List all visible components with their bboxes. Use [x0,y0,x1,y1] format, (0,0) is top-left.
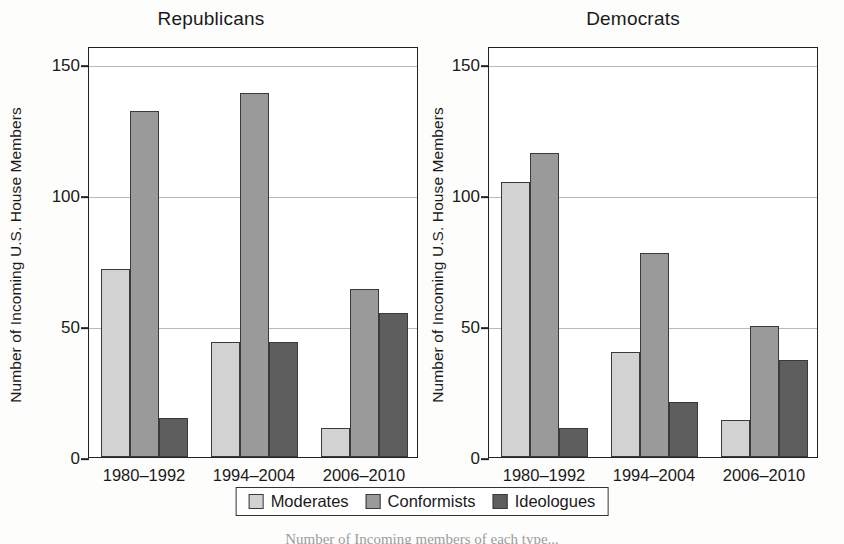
bar-dem-conformists-0[interactable] [530,153,559,457]
y-tick-label-150: 150 [52,56,80,76]
bar-rep-moderates-0[interactable] [101,269,130,457]
x-tick-label-dem-1: 1994–2004 [613,466,696,485]
legend-label-conformists: Conformists [388,492,476,511]
legend-label-moderates: Moderates [271,492,349,511]
bar-dem-moderates-0[interactable] [501,182,530,457]
chart-legend: ModeratesConformistsIdeologues [236,487,609,516]
plot-area-democrats: 050100150 1980–19921994–20042006–2010 [488,47,818,458]
legend-item-moderates[interactable]: Moderates [249,492,349,511]
bar-group-rep-2 [309,48,419,457]
legend-item-ideologues[interactable]: Ideologues [493,492,596,511]
bar-rep-conformists-0[interactable] [130,111,159,457]
bar-rep-conformists-1[interactable] [240,93,269,457]
bar-group-rep-0 [89,48,199,457]
figure-caption: Number of Incoming members of each type.… [0,531,844,544]
figure: Republicans Number of Incoming U.S. Hous… [0,0,844,544]
y-axis-label-left-text: Number of Incoming U.S. House Members [7,107,25,403]
bar-group-dem-1 [599,48,709,457]
y-tick-mark-0 [481,458,489,460]
bar-rep-moderates-2[interactable] [321,428,350,457]
bar-rep-ideologues-1[interactable] [269,342,298,457]
x-tick-label-rep-2: 2006–2010 [323,466,406,485]
bar-rep-ideologues-2[interactable] [379,313,408,457]
bar-dem-ideologues-1[interactable] [669,402,698,457]
bar-dem-conformists-1[interactable] [640,253,669,457]
y-axis-label-right: Number of Incoming U.S. House Members [424,55,452,455]
bar-dem-ideologues-0[interactable] [559,428,588,457]
y-tick-label-50: 50 [461,318,480,338]
legend-swatch-conformists-icon [366,494,381,509]
y-tick-mark-50 [481,327,489,329]
y-tick-mark-50 [81,327,89,329]
bar-dem-moderates-2[interactable] [721,420,750,457]
y-tick-label-100: 100 [452,187,480,207]
bars-republicans: 1980–19921994–20042006–2010 [89,48,417,457]
bar-dem-conformists-2[interactable] [750,326,779,457]
bar-dem-ideologues-2[interactable] [779,360,808,457]
panel-title-republicans: Republicans [0,8,422,30]
plot-area-republicans: 050100150 1980–19921994–20042006–2010 [88,47,418,458]
bar-group-rep-1 [199,48,309,457]
legend-swatch-moderates-icon [249,494,264,509]
y-tick-label-100: 100 [52,187,80,207]
y-tick-mark-100 [81,196,89,198]
legend-swatch-ideologues-icon [493,494,508,509]
x-tick-label-dem-2: 2006–2010 [723,466,806,485]
bar-dem-moderates-1[interactable] [611,352,640,457]
y-tick-label-50: 50 [61,318,80,338]
chart-panel-republicans: Republicans Number of Incoming U.S. Hous… [0,0,422,490]
bar-group-dem-0 [489,48,599,457]
y-tick-mark-150 [81,65,89,67]
y-tick-mark-100 [481,196,489,198]
bar-group-dem-2 [709,48,819,457]
y-tick-label-0: 0 [71,449,80,469]
bar-rep-moderates-1[interactable] [211,342,240,457]
bar-rep-conformists-2[interactable] [350,289,379,457]
y-axis-label-left: Number of Incoming U.S. House Members [2,55,30,455]
x-tick-label-rep-0: 1980–1992 [103,466,186,485]
panel-title-democrats: Democrats [422,8,844,30]
y-tick-mark-0 [81,458,89,460]
x-tick-label-dem-0: 1980–1992 [503,466,586,485]
legend-item-conformists[interactable]: Conformists [366,492,476,511]
panel-container: Republicans Number of Incoming U.S. Hous… [0,0,844,490]
bar-rep-ideologues-0[interactable] [159,418,188,457]
chart-panel-democrats: Democrats Number of Incoming U.S. House … [422,0,844,490]
y-axis-label-right-text: Number of Incoming U.S. House Members [429,107,447,403]
bars-democrats: 1980–19921994–20042006–2010 [489,48,817,457]
y-tick-label-150: 150 [452,56,480,76]
y-tick-mark-150 [481,65,489,67]
y-tick-label-0: 0 [471,449,480,469]
legend-label-ideologues: Ideologues [515,492,596,511]
x-tick-label-rep-1: 1994–2004 [213,466,296,485]
